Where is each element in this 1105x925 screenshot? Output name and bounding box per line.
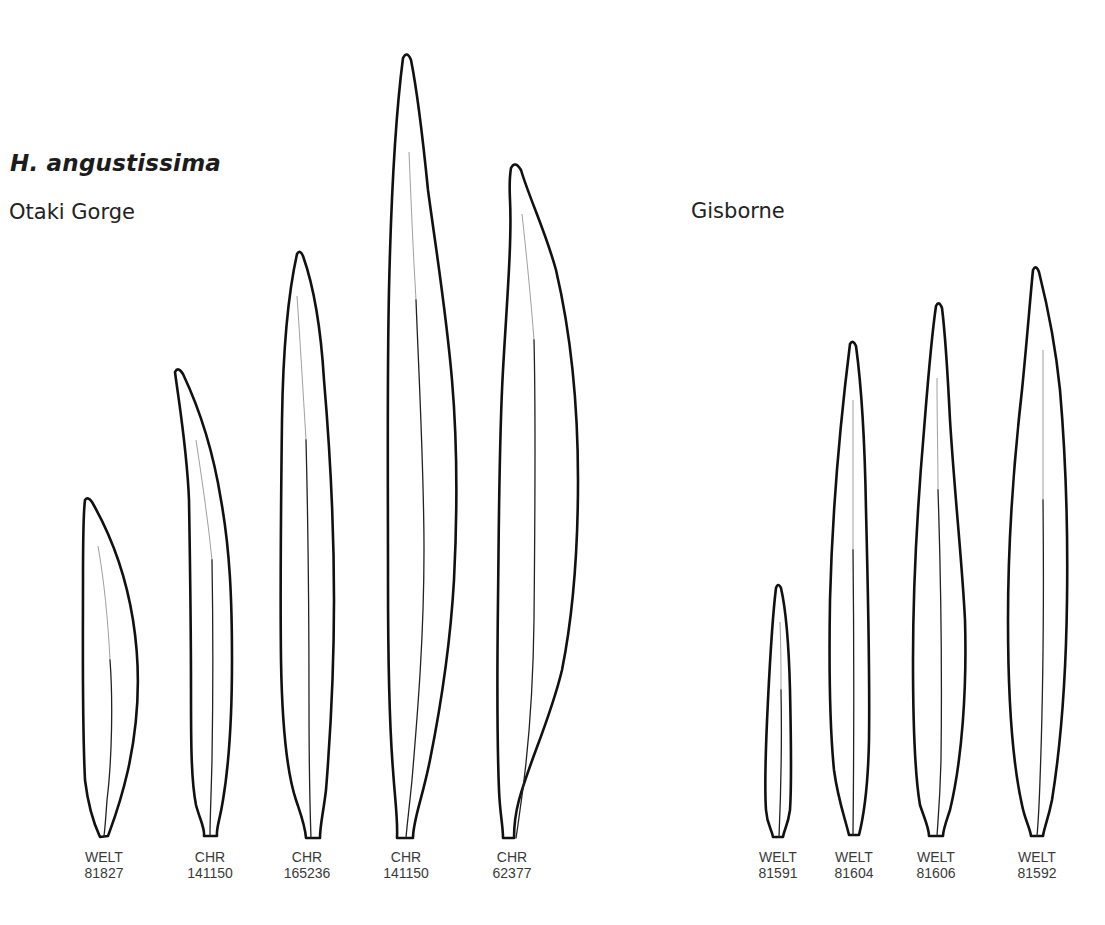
leaf-outline-chr-141150-b (388, 54, 457, 838)
specimen-label-9: WELT 81592 (997, 849, 1077, 881)
leaf-outline-chr-141150-a (175, 369, 232, 836)
specimen-number: 165236 (267, 865, 347, 881)
leaf-outline-chr-62377 (497, 164, 578, 838)
specimen-label-4: CHR 141150 (366, 849, 446, 881)
leaf-outline-welt-81592 (1008, 267, 1067, 836)
leaf-outline-welt-81827 (83, 498, 138, 837)
herbarium-code: CHR (170, 849, 250, 865)
specimen-number: 81606 (896, 865, 976, 881)
leaf-illustrations (0, 0, 1105, 925)
specimen-label-6: WELT 81591 (738, 849, 818, 881)
herbarium-code: WELT (738, 849, 818, 865)
specimen-label-3: CHR 165236 (267, 849, 347, 881)
specimen-label-5: CHR 62377 (472, 849, 552, 881)
leaf-outline-welt-81591 (765, 585, 791, 837)
specimen-number: 81592 (997, 865, 1077, 881)
specimen-label-8: WELT 81606 (896, 849, 976, 881)
specimen-number: 141150 (170, 865, 250, 881)
herbarium-code: WELT (997, 849, 1077, 865)
herbarium-code: WELT (64, 849, 144, 865)
herbarium-code: WELT (896, 849, 976, 865)
herbarium-code: CHR (472, 849, 552, 865)
specimen-number: 81827 (64, 865, 144, 881)
leaf-outline-chr-165236 (281, 252, 334, 838)
herbarium-code: CHR (366, 849, 446, 865)
specimen-number: 141150 (366, 865, 446, 881)
specimen-label-2: CHR 141150 (170, 849, 250, 881)
specimen-label-7: WELT 81604 (814, 849, 894, 881)
specimen-number: 81604 (814, 865, 894, 881)
specimen-label-1: WELT 81827 (64, 849, 144, 881)
herbarium-code: CHR (267, 849, 347, 865)
specimen-number: 81591 (738, 865, 818, 881)
specimen-number: 62377 (472, 865, 552, 881)
herbarium-code: WELT (814, 849, 894, 865)
leaf-outline-welt-81604 (829, 342, 869, 835)
leaf-outline-welt-81606 (913, 303, 965, 836)
